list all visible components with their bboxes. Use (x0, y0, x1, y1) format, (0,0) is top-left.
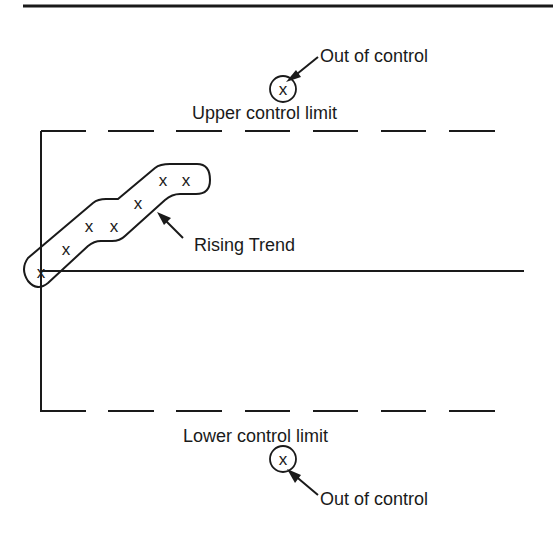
trend-point: x (37, 263, 46, 282)
arrow-icon (287, 469, 318, 495)
out-of-control-label-top: Out of control (320, 46, 428, 66)
arrow-icon (286, 57, 318, 82)
trend-point: x (110, 217, 119, 236)
out-of-control-label-bottom: Out of control (320, 489, 428, 509)
trend-point: x (62, 240, 71, 259)
trend-points: x x x x x x x (37, 171, 191, 282)
control-chart-diagram: Upper control limit x Out of control x x… (0, 0, 553, 543)
out-of-control-point-bottom: x (270, 446, 296, 472)
x-marker: x (279, 450, 288, 469)
trend-point: x (182, 171, 191, 190)
trend-point: x (85, 217, 94, 236)
x-marker: x (279, 80, 288, 99)
rising-trend-label: Rising Trend (194, 235, 295, 255)
lower-control-limit-label: Lower control limit (183, 426, 328, 446)
trend-point: x (134, 194, 143, 213)
upper-control-limit-label: Upper control limit (192, 103, 337, 123)
trend-point: x (159, 171, 168, 190)
arrow-icon (157, 212, 183, 238)
